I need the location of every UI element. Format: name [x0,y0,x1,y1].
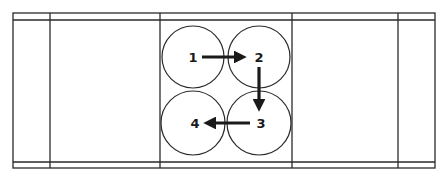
sequence-diagram: 1 2 3 4 [0,0,443,174]
node-label-2: 2 [254,50,263,65]
node-label-3: 3 [256,116,265,131]
node-label-4: 4 [190,116,199,131]
node-label-1: 1 [188,50,197,65]
outer-border [13,13,435,168]
frame [13,13,435,168]
